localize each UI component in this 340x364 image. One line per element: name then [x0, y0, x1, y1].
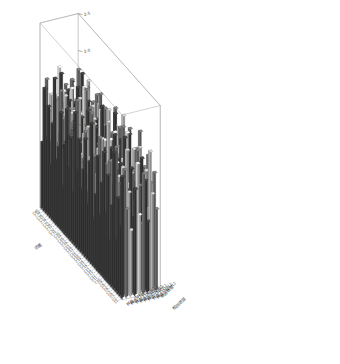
chart-figure: 0.51.01.52.02.5浓度 (mg/L)样品 (5mL)样品 (10mL… — [0, 0, 340, 364]
bar3d-plot — [0, 0, 340, 364]
